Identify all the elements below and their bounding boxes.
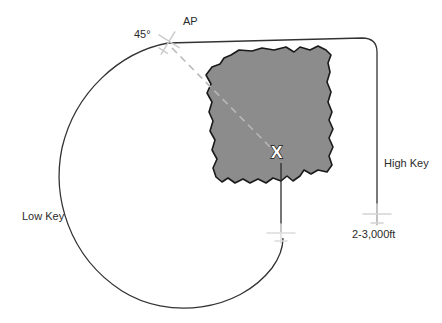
aircraft-icon-high-key xyxy=(363,204,391,225)
diagram-canvas xyxy=(0,0,442,323)
forced-landing-diagram: AP 45° High Key Low Key 2-3,000ft X xyxy=(0,0,442,323)
label-ap: AP xyxy=(183,16,198,27)
label-approach-angle: 45° xyxy=(134,29,151,40)
aircraft-icon-low-key xyxy=(267,224,295,243)
label-target-marker: X xyxy=(271,144,282,161)
label-altitude: 2-3,000ft xyxy=(352,229,395,240)
landing-field-shape xyxy=(206,46,333,183)
label-low-key: Low Key xyxy=(22,211,64,222)
label-high-key: High Key xyxy=(384,158,429,169)
